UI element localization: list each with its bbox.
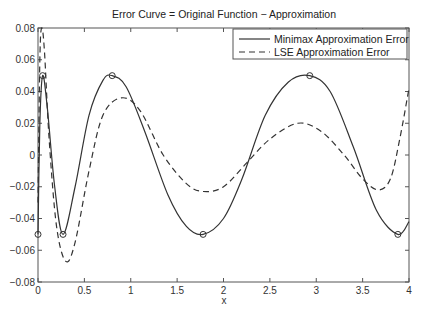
y-tick-label: −0.06: [10, 245, 36, 256]
error-curve-chart: Error Curve = Original Function − Approx…: [0, 0, 426, 317]
axis-ticks: 00.511.522.533.540.080.060.040.020−0.02−…: [10, 23, 413, 297]
y-tick-label: −0.04: [10, 213, 36, 224]
x-tick-label: 3: [313, 285, 319, 296]
x-tick-label: 0: [35, 285, 41, 296]
chart-title: Error Curve = Original Function − Approx…: [112, 8, 336, 20]
x-tick-label: 4: [406, 285, 412, 296]
plot-frame: [38, 28, 409, 282]
legend-entry-minimax: Minimax Approximation Error: [274, 33, 409, 45]
y-tick-label: 0.02: [16, 118, 36, 129]
x-tick-label: 3.5: [356, 285, 370, 296]
x-tick-label: 2.5: [263, 285, 277, 296]
y-tick-label: 0.06: [16, 54, 36, 65]
extrema-markers: [35, 73, 401, 238]
x-tick-label: 1: [128, 285, 134, 296]
x-axis-label: x: [222, 295, 227, 306]
y-tick-label: −0.08: [10, 277, 36, 288]
legend: Minimax Approximation Error LSE Approxim…: [233, 29, 409, 59]
x-tick-label: 1.5: [170, 285, 184, 296]
y-tick-label: −0.02: [10, 181, 36, 192]
plot-curves: [38, 28, 409, 262]
lse-error-curve: [38, 28, 409, 262]
legend-entry-lse: LSE Approximation Error: [274, 46, 390, 58]
minimax-error-curve: [38, 75, 409, 235]
x-tick-label: 0.5: [77, 285, 91, 296]
y-tick-label: 0.04: [16, 86, 36, 97]
y-tick-label: 0.08: [16, 23, 36, 34]
y-tick-label: 0: [29, 150, 35, 161]
